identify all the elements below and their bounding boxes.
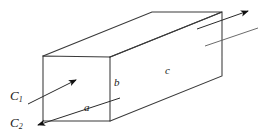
flow-label-c1-subscript: 1: [19, 95, 23, 104]
edge-label-a: a: [84, 102, 90, 113]
flow-label-c1-base: C: [10, 88, 19, 103]
c1-inlet-arrow: [28, 80, 76, 104]
outlet-flow-arrows: [197, 11, 258, 46]
front-face-outline: [43, 56, 110, 121]
edge-label-c: c: [165, 65, 170, 76]
figure-root: a b c C1 C2: [0, 0, 273, 136]
top-face-outline: [43, 12, 222, 57]
edge-label-b: b: [114, 77, 120, 88]
cuboid-wireframe: [43, 12, 222, 121]
outlet-line: [205, 28, 258, 46]
inlet-flow-arrows: [28, 80, 120, 125]
flow-label-c1: C1: [10, 89, 23, 102]
flow-label-c2-subscript: 2: [19, 122, 23, 131]
flow-label-c2-base: C: [10, 115, 19, 130]
flow-label-c2: C2: [10, 116, 23, 129]
cuboid-diagram-svg: [0, 0, 273, 136]
